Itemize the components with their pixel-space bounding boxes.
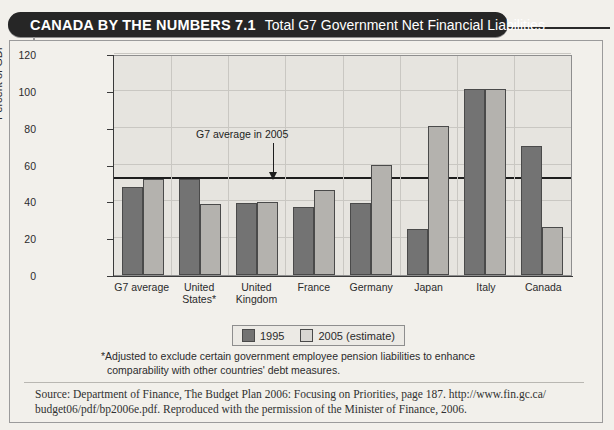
x-axis-labels: G7 averageUnitedStates*UnitedKingdomFran… bbox=[113, 281, 572, 305]
bar-1995 bbox=[236, 203, 257, 275]
header-subtitle: Total G7 Government Net Financial Liabil… bbox=[256, 17, 545, 33]
bar-group bbox=[514, 56, 571, 275]
bar-2005-estimate- bbox=[200, 204, 221, 275]
legend-label-2005: 2005 (estimate) bbox=[318, 330, 394, 342]
bar-2005-estimate- bbox=[143, 179, 164, 275]
footnote: *Adjusted to exclude certain government … bbox=[101, 350, 531, 377]
y-tick-label-20: 20 bbox=[24, 233, 36, 245]
x-axis-label: UnitedKingdom bbox=[228, 281, 285, 305]
bar-group bbox=[171, 56, 228, 275]
legend-swatch-1995 bbox=[242, 329, 255, 342]
bar-1995 bbox=[293, 207, 314, 275]
source-line-1: Source: Department of Finance, The Budge… bbox=[35, 388, 546, 400]
y-tick-label-80: 80 bbox=[24, 123, 36, 135]
y-tick-label-40: 40 bbox=[24, 196, 36, 208]
footnote-line-1: *Adjusted to exclude certain government … bbox=[101, 350, 475, 362]
source-note: Source: Department of Finance, The Budge… bbox=[35, 387, 583, 417]
plot-area bbox=[113, 55, 572, 276]
y-tick-label-0: 0 bbox=[30, 270, 36, 282]
legend-item-1995: 1995 bbox=[242, 329, 284, 342]
x-axis-label: Japan bbox=[400, 281, 457, 305]
bar-2005-estimate- bbox=[485, 89, 506, 275]
bar-group bbox=[457, 56, 514, 275]
bar-group bbox=[343, 56, 400, 275]
bar-1995 bbox=[350, 203, 371, 275]
x-axis bbox=[113, 276, 573, 277]
figure-root: CANADA BY THE NUMBERS 7.1 Total G7 Gover… bbox=[0, 0, 614, 430]
header-kicker: CANADA BY THE NUMBERS 7.1 bbox=[8, 17, 256, 33]
bar-2005-estimate- bbox=[428, 126, 449, 275]
gridline-120 bbox=[114, 53, 571, 54]
x-axis-label: Italy bbox=[457, 281, 514, 305]
bar-group bbox=[114, 56, 171, 275]
bar-group bbox=[400, 56, 457, 275]
source-line-2: budget06/pdf/bp2006e.pdf. Reproduced wit… bbox=[35, 403, 467, 415]
x-axis-label: UnitedStates* bbox=[170, 281, 227, 305]
y-axis bbox=[113, 55, 114, 276]
bar-2005-estimate- bbox=[371, 165, 392, 276]
bar-2005-estimate- bbox=[542, 227, 563, 275]
x-axis-label: Germany bbox=[343, 281, 400, 305]
y-tick-label-60: 60 bbox=[24, 160, 36, 172]
header-capsule: CANADA BY THE NUMBERS 7.1 Total G7 Gover… bbox=[8, 12, 508, 37]
x-axis-label: G7 average bbox=[113, 281, 170, 305]
chart-legend: 1995 2005 (estimate) bbox=[232, 325, 405, 346]
bar-2005-estimate- bbox=[314, 190, 335, 275]
bar-1995 bbox=[464, 89, 485, 275]
y-axis-label: Percent of GDP bbox=[0, 43, 4, 120]
g7-average-annotation-label: G7 average in 2005 bbox=[196, 128, 288, 140]
source-divider bbox=[24, 382, 584, 383]
bar-1995 bbox=[521, 146, 542, 275]
y-tick-label-100: 100 bbox=[18, 86, 36, 98]
y-tick-label-120: 120 bbox=[18, 49, 36, 61]
legend-swatch-2005 bbox=[300, 329, 313, 342]
footnote-line-2: comparability with other countries' debt… bbox=[101, 364, 531, 378]
bar-group bbox=[285, 56, 342, 275]
x-axis-label: Canada bbox=[515, 281, 572, 305]
legend-label-1995: 1995 bbox=[260, 330, 284, 342]
bar-groups bbox=[114, 56, 571, 275]
legend-item-2005: 2005 (estimate) bbox=[300, 329, 394, 342]
x-axis-label: France bbox=[285, 281, 342, 305]
bar-2005-estimate- bbox=[257, 202, 278, 275]
bar-1995 bbox=[122, 187, 143, 275]
bar-1995 bbox=[179, 179, 200, 275]
g7-average-annotation-arrow bbox=[273, 143, 274, 175]
figure-header: CANADA BY THE NUMBERS 7.1 Total G7 Gover… bbox=[0, 6, 614, 36]
g7-average-annotation-arrowhead bbox=[269, 172, 277, 180]
bar-group bbox=[228, 56, 285, 275]
bar-1995 bbox=[407, 229, 428, 275]
